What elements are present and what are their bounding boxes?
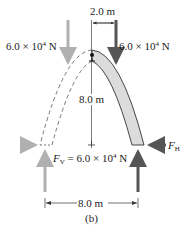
vertical-reaction-label: FV = 6.0 × 104 N <box>53 153 127 166</box>
right-load-label: 6.0 × 104 N <box>119 41 170 52</box>
span-dimension-label: 8.0 m <box>78 198 103 209</box>
height-dimension-label: 8.0 m <box>79 94 104 105</box>
apex-pin <box>90 53 94 57</box>
horizontal-reaction-label: FH <box>168 140 180 153</box>
left-load-label: 6.0 × 104 N <box>6 41 57 52</box>
figure-caption: (b) <box>85 213 98 224</box>
offset-dimension-label: 2.0 m <box>90 6 115 17</box>
